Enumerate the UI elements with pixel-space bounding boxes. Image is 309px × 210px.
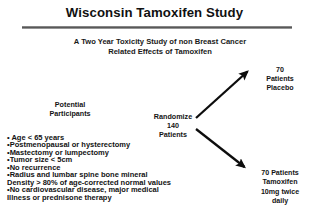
eligibility-criteria-list: • Age < 65 years •Postmenopausal or hyst…: [7, 134, 203, 201]
flow-node-participants: Potential Participants: [24, 100, 116, 118]
arm-placebo-treatment: Placebo: [253, 84, 307, 93]
slide-canvas: Wisconsin Tamoxifen Study A Two Year Tox…: [0, 0, 309, 210]
arm-tamoxifen-dose: 10mg twice: [251, 188, 309, 197]
flow-node-arm-placebo: 70 Patients Placebo: [253, 66, 307, 94]
page-title: Wisconsin Tamoxifen Study: [0, 5, 309, 20]
subtitle: A Two Year Toxicity Study of non Breast …: [24, 37, 296, 56]
criteria-line: Illness or prednisone therapy: [7, 194, 203, 201]
flow-node-arm-tamoxifen: 70 Patients Tamoxifen 10mg twice daily: [251, 169, 309, 207]
randomize-count: 140: [140, 121, 206, 130]
arm-placebo-count: 70: [253, 66, 307, 75]
arm-tamoxifen-count: 70 Patients: [251, 169, 309, 178]
subtitle-line-2: Related Effects of Tamoxifen: [24, 47, 296, 57]
arm-tamoxifen-treatment: Tamoxifen: [251, 178, 309, 187]
subtitle-line-1: A Two Year Toxicity Study of non Breast …: [24, 37, 296, 47]
arm-placebo-patients-label: Patients: [253, 75, 307, 84]
participants-label-line-2: Participants: [24, 109, 116, 118]
title-divider: [22, 26, 292, 29]
arm-tamoxifen-frequency: daily: [251, 197, 309, 206]
participants-label-line-1: Potential: [24, 100, 116, 109]
randomize-label: Randomize: [140, 112, 206, 121]
